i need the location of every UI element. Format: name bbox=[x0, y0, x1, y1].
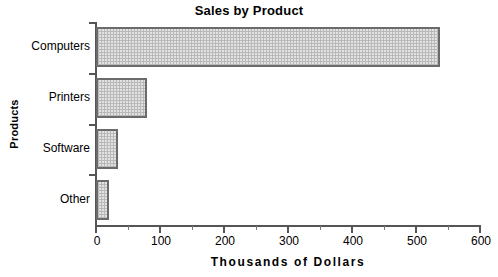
x-tick-label: 400 bbox=[328, 234, 378, 248]
x-tick-major bbox=[287, 226, 289, 233]
x-tick-minor bbox=[128, 226, 129, 230]
y-tick bbox=[89, 73, 96, 75]
category-label-printers: Printers bbox=[0, 90, 90, 104]
bar-other bbox=[96, 180, 109, 220]
x-tick-major bbox=[159, 226, 161, 233]
x-tick-major bbox=[415, 226, 417, 233]
y-tick bbox=[89, 174, 96, 176]
x-tick-major bbox=[223, 226, 225, 233]
bar-chart: Sales by Product Products ComputersPrint… bbox=[0, 0, 498, 277]
x-tick-label: 100 bbox=[136, 234, 186, 248]
chart-title: Sales by Product bbox=[0, 3, 498, 18]
category-label-software: Software bbox=[0, 141, 90, 155]
bar-software bbox=[96, 129, 118, 169]
x-tick-label: 500 bbox=[392, 234, 442, 248]
x-tick-label: 200 bbox=[200, 234, 250, 248]
category-label-computers: Computers bbox=[0, 39, 90, 53]
x-tick-major bbox=[479, 226, 481, 233]
category-label-other: Other bbox=[0, 192, 90, 206]
x-tick-minor bbox=[448, 226, 449, 230]
x-tick-minor bbox=[192, 226, 193, 230]
x-axis-title: Thousands of Dollars bbox=[96, 255, 480, 269]
bar-printers bbox=[96, 78, 147, 118]
x-tick-label: 600 bbox=[456, 234, 498, 248]
x-tick-minor bbox=[320, 226, 321, 230]
x-tick-minor bbox=[256, 226, 257, 230]
x-tick-major bbox=[95, 226, 97, 233]
x-tick-label: 0 bbox=[72, 234, 122, 248]
x-tick-major bbox=[351, 226, 353, 233]
x-tick-minor bbox=[384, 226, 385, 230]
y-tick bbox=[89, 22, 96, 24]
bar-computers bbox=[96, 27, 440, 67]
y-tick bbox=[89, 124, 96, 126]
x-tick-label: 300 bbox=[264, 234, 314, 248]
